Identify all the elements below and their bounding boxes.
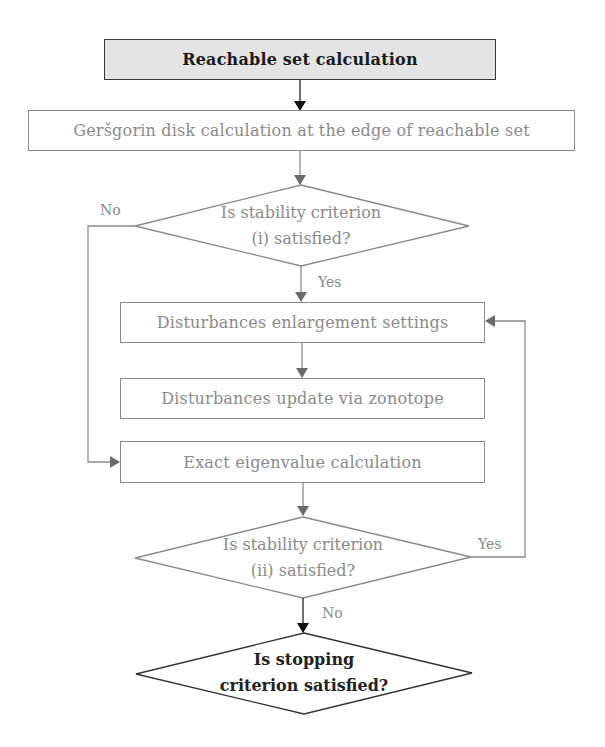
decision1-line1: Is stability criterion: [181, 200, 421, 226]
decision2-line1: Is stability criterion: [183, 532, 423, 558]
edge-label-decision1-yes: Yes: [318, 274, 342, 290]
decision2-line2: (ii) satisfied?: [183, 558, 423, 584]
decision1-text: Is stability criterion (i) satisfied?: [181, 200, 421, 252]
edge-label-decision2-no: No: [322, 605, 343, 621]
edge-label-decision2-yes: Yes: [478, 536, 502, 552]
node-label: Disturbances update via zonotope: [161, 389, 444, 408]
edge-label-decision1-no: No: [100, 202, 121, 218]
decision1-line2: (i) satisfied?: [181, 226, 421, 252]
arrow-decision2-yes: [471, 321, 525, 557]
node-label: Exact eigenvalue calculation: [183, 453, 422, 472]
node-label: Disturbances enlargement settings: [157, 313, 449, 332]
decision3-line2: criterion satisfied?: [184, 673, 424, 699]
node-reachable-set-calculation: Reachable set calculation: [104, 39, 496, 80]
node-disturbances-update-via-zonotope: Disturbances update via zonotope: [120, 378, 485, 419]
node-label: Geršgorin disk calculation at the edge o…: [73, 121, 530, 140]
arrow-decision1-no: [88, 226, 135, 462]
decision2-text: Is stability criterion (ii) satisfied?: [183, 532, 423, 584]
decision3-line1: Is stopping: [184, 647, 424, 673]
node-exact-eigenvalue-calculation: Exact eigenvalue calculation: [120, 441, 485, 483]
node-label: Reachable set calculation: [182, 50, 418, 69]
node-disturbances-enlargement-settings: Disturbances enlargement settings: [120, 302, 485, 343]
node-gersgorin-disk-calculation: Geršgorin disk calculation at the edge o…: [28, 110, 575, 151]
decision3-text: Is stopping criterion satisfied?: [184, 647, 424, 699]
